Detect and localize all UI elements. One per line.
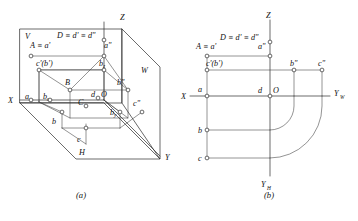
label-a-C: C [78,98,84,107]
label-a-cprime-bprime: c'(b') [36,59,53,68]
panel-a-nodes [29,38,144,130]
w-plane-label: W [141,66,149,75]
node-b-b-double [292,68,296,72]
node-b-c-double [320,68,324,72]
label-b-d-small: d [258,86,263,95]
label-b-origin: O [273,86,279,95]
node-a-a-small [29,98,33,102]
label-b-a-double: a" [258,42,266,51]
label-a-b-small: b [52,117,56,126]
node-b-b-small [205,128,209,132]
w-plane-outline [122,29,160,159]
h-plane-outline [20,103,160,159]
label-b-A-aprime: A ≡ a' [195,42,217,51]
label-a-B: B [65,78,70,87]
label-b-cprime-bprime: c'(b') [206,59,223,68]
label-b-a-small: a [198,85,202,94]
v-plane-label: V [25,32,31,41]
label-a-a-small: a [25,92,29,101]
technical-drawing-figure: Z X Y V H W A ≡ a' D ≡ d' ≡ d" a" c'(b')… [0,0,358,221]
label-a-D-dprime-ddbl: D ≡ d' ≡ d" [56,31,96,40]
axis-z-label-b: Z [266,11,271,20]
label-b-c-double: c" [318,59,326,68]
label-a-origin: O [101,90,107,99]
node-a-b-sub-z [102,68,106,72]
projection-diagram-svg: Z X Y V H W A ≡ a' D ≡ d' ≡ d" a" c'(b')… [0,0,358,221]
node-a-c-double [140,110,144,114]
transfer-arc-b [270,96,294,130]
label-b-b-double: b" [290,59,298,68]
label-a-a-double: a" [104,41,112,50]
node-b-origin-d [268,94,272,98]
node-b-cprime-bprime [205,68,209,72]
panel-b-nodes [205,40,324,160]
node-b-a-double [268,54,272,58]
h-plane-label: H [78,148,86,157]
label-a-b-double: b" [117,78,125,87]
label-b-c-small: c [198,154,202,163]
node-a-c-small [84,126,88,130]
panel-b-group: Z X Y W Y H A ≡ a' D ≡ d' ≡ d" a" c'(b')… [180,11,345,200]
node-a-C [84,104,88,108]
label-b-D-dprime-ddbl: D ≡ d' ≡ d" [219,33,259,42]
node-a-a-double [102,54,106,58]
axis-x-label-a: X [7,96,14,105]
node-a-A-aprime [29,54,33,58]
node-b-a-small [205,94,209,98]
label-a-b-sub-y-sub: y [113,112,117,118]
node-a-d-small [96,96,100,100]
label-a-c-double: c" [133,99,141,108]
axis-y-label-a: Y [165,153,171,162]
node-a-D [102,38,106,42]
label-a-d-small: d [91,90,96,99]
node-a-cprime-bprime [37,68,41,72]
object-box-edges [39,70,142,144]
node-a-b-small [60,110,64,114]
node-a-b-sub-x [48,98,52,102]
node-b-c-small [205,156,209,160]
caption-b: (b) [264,190,274,200]
node-a-b-double [126,88,130,92]
axis-yw-sublabel-b: W [340,94,345,100]
label-a-A-aprime: A ≡ a' [29,41,51,50]
node-b-D [268,40,272,44]
node-b-A-aprime [205,54,209,58]
axis-x-label-b: X [180,92,187,101]
node-a-b-sub-y [118,110,122,114]
label-a-c-small: c [77,135,81,144]
transfer-arc-c [270,96,322,158]
caption-a: (a) [76,190,86,200]
label-b-b-small: b [198,126,202,135]
node-a-B [68,88,72,92]
panel-a-group: Z X Y V H W A ≡ a' D ≡ d' ≡ d" a" c'(b')… [7,13,171,200]
axis-z-label-a: Z [120,13,125,22]
